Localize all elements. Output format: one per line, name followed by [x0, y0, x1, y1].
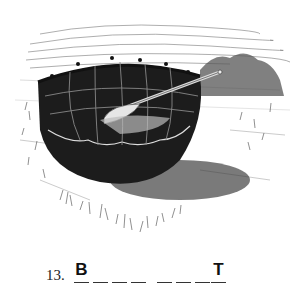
letter-blank[interactable]: [157, 260, 172, 283]
letter-blank[interactable]: [176, 260, 191, 283]
word-puzzle: 13. B T: [0, 258, 300, 288]
letter-blank[interactable]: [131, 260, 146, 283]
letter-blank[interactable]: T: [211, 260, 226, 283]
question-number: 13.: [46, 267, 65, 284]
letter-blank[interactable]: [112, 260, 127, 283]
letter-blank[interactable]: [195, 260, 210, 283]
letter-blank[interactable]: B: [74, 260, 89, 283]
letter-blank[interactable]: [93, 260, 108, 283]
bull-boat-illustration: [0, 0, 300, 262]
